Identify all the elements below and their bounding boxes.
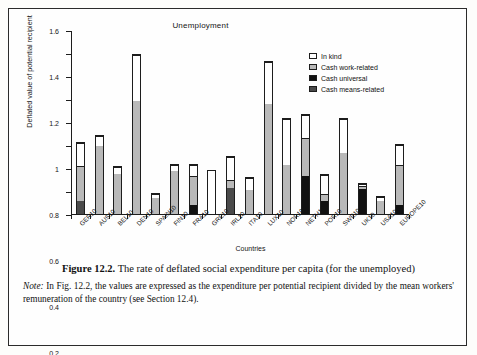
bar-segment-kind	[340, 119, 347, 154]
bar-slot	[146, 31, 165, 215]
stacked-bar[interactable]	[264, 61, 273, 215]
chart-title-text: Unemployment	[172, 21, 228, 30]
bar-segment-means	[77, 201, 84, 214]
stacked-bar[interactable]	[376, 196, 385, 215]
stacked-bar[interactable]	[282, 118, 291, 215]
figure-frame: Unemployment Deflated value of potential…	[8, 8, 467, 346]
legend-label-in-kind: In kind	[321, 53, 342, 60]
bar-segment-work	[114, 174, 121, 214]
bar-segment-kind	[133, 55, 140, 101]
note-text: In Fig. 12.2, the values are expressed a…	[23, 281, 454, 304]
y-tick-label: 0.8	[49, 212, 59, 219]
bar-slot	[90, 31, 109, 215]
stacked-bar[interactable]	[76, 142, 85, 215]
bar-segment-work	[377, 201, 384, 214]
bar-segment-kind	[190, 165, 197, 177]
caption-label: Figure 12.2.	[62, 263, 115, 274]
y-tick-label: 1.4	[49, 74, 59, 81]
x-axis-title-text: Countries	[236, 245, 266, 252]
legend-label-cash-universal: Cash universal	[321, 75, 367, 82]
bar-slot	[71, 31, 90, 215]
bar-segment-work	[340, 153, 347, 214]
legend-item-cash-means-related: Cash means-related	[309, 84, 439, 94]
figure-page: Unemployment Deflated value of potential…	[0, 0, 477, 355]
figure-caption: Figure 12.2. The rate of deflated social…	[23, 262, 454, 305]
legend-item-cash-work-related: Cash work-related	[309, 62, 439, 72]
bar-slot	[221, 31, 240, 215]
bar-segment-kind	[77, 143, 84, 166]
note-label: Note:	[23, 281, 44, 291]
bar-segment-kind	[114, 167, 121, 174]
bar-segment-kind	[208, 171, 215, 214]
bar-segment-work	[246, 190, 253, 214]
bar-segment-work	[77, 166, 84, 202]
bar-segment-work	[396, 165, 403, 205]
stacked-bar[interactable]	[301, 114, 310, 215]
legend-swatch-cash-work-related-icon	[309, 64, 317, 71]
legend-swatch-in-kind-icon	[309, 53, 317, 60]
legend-swatch-cash-means-related-icon	[309, 86, 317, 93]
legend-item-in-kind: In kind	[309, 51, 439, 61]
bar-segment-work	[190, 176, 197, 205]
y-axis-label: Deflated value of potential recipient	[25, 0, 34, 147]
chart: Unemployment Deflated value of potential…	[9, 9, 468, 259]
bar-slot	[278, 31, 297, 215]
stacked-bar[interactable]	[189, 164, 198, 215]
bar-segment-work	[302, 138, 309, 176]
x-axis-labels: GER10AUS10BEL10DEN10SPAIN10FIN10FRA10GRE…	[71, 217, 409, 261]
caption-main: Figure 12.2. The rate of deflated social…	[23, 262, 454, 276]
bar-segment-kind	[302, 115, 309, 138]
bar-segment-kind	[96, 136, 103, 146]
bar-segment-work	[283, 165, 290, 214]
bar-segment-universal	[190, 205, 197, 214]
stacked-bar[interactable]	[207, 170, 216, 215]
y-tick-label: 1	[55, 166, 59, 173]
bar-segment-kind	[246, 178, 253, 190]
bar-segment-kind	[283, 119, 290, 165]
stacked-bar[interactable]	[395, 144, 404, 215]
caption-note: Note: In Fig. 12.2, the values are expre…	[23, 280, 454, 305]
stacked-bar[interactable]	[226, 156, 235, 215]
bar-segment-work	[227, 180, 234, 188]
bar-segment-work	[96, 146, 103, 214]
x-axis-title: Countries	[9, 245, 468, 252]
bar-segment-universal	[302, 176, 309, 214]
legend-label-cash-work-related: Cash work-related	[321, 64, 378, 71]
stacked-bar[interactable]	[339, 118, 348, 215]
bar-segment-kind	[171, 165, 178, 172]
bar-segment-work	[133, 101, 140, 214]
bar-slot	[165, 31, 184, 215]
bar-slot	[240, 31, 259, 215]
y-tick-label: 0.2	[49, 350, 59, 355]
stacked-bar[interactable]	[132, 54, 141, 215]
legend-item-cash-universal: Cash universal	[309, 73, 439, 83]
legend-label-cash-means-related: Cash means-related	[321, 86, 384, 93]
bar-segment-kind	[227, 157, 234, 180]
bar-segment-kind	[321, 175, 328, 195]
chart-title: Unemployment	[9, 21, 468, 30]
bar-segment-work	[321, 194, 328, 201]
bar-slot	[259, 31, 278, 215]
bar-slot	[184, 31, 203, 215]
bar-segment-kind	[396, 145, 403, 165]
caption-text: The rate of deflated social expenditure …	[118, 263, 415, 274]
bar-slot	[127, 31, 146, 215]
stacked-bar[interactable]	[113, 166, 122, 215]
bar-slot	[109, 31, 128, 215]
chart-legend: In kind Cash work-related Cash universal…	[309, 51, 439, 95]
bar-slot	[202, 31, 221, 215]
bar-segment-work	[265, 104, 272, 214]
bar-segment-kind	[265, 62, 272, 103]
y-tick-label: 1.6	[49, 28, 59, 35]
stacked-bar[interactable]	[245, 177, 254, 215]
stacked-bar[interactable]	[95, 135, 104, 215]
y-tick-label: 1.2	[49, 120, 59, 127]
legend-swatch-cash-universal-icon	[309, 75, 317, 82]
